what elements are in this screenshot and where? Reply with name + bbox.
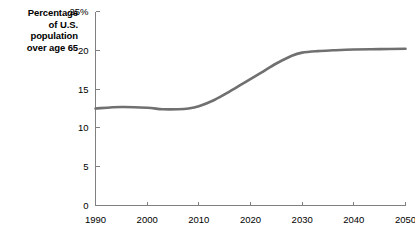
y-axis-tick-label: 15 bbox=[78, 84, 89, 95]
y-axis-tick-label: 20 bbox=[78, 45, 89, 56]
x-axis-ticks: 1990200020102020203020402050 bbox=[85, 202, 415, 225]
x-axis-tick-label: 2040 bbox=[343, 214, 364, 225]
x-axis-tick-label: 2000 bbox=[137, 214, 158, 225]
chart-container: Percentage of U.S. population over age 6… bbox=[0, 0, 415, 232]
y-axis-tick-label: 0 bbox=[83, 200, 88, 211]
line-chart-plot: 0510152025% 1990200020102020203020402050 bbox=[0, 0, 415, 232]
y-axis-tick-label: 5 bbox=[83, 161, 88, 172]
y-axis-tick-label: 25% bbox=[69, 6, 89, 17]
x-axis-tick-label: 2010 bbox=[188, 214, 209, 225]
x-axis-tick-label: 2020 bbox=[240, 214, 261, 225]
x-axis: 1990200020102020203020402050 bbox=[85, 202, 415, 225]
y-axis-tick-label: 10 bbox=[78, 122, 89, 133]
x-axis-tick-label: 2030 bbox=[292, 214, 313, 225]
data-series-line bbox=[96, 49, 406, 110]
x-axis-tick-label: 2050 bbox=[395, 214, 415, 225]
x-axis-tick-label: 1990 bbox=[85, 214, 106, 225]
